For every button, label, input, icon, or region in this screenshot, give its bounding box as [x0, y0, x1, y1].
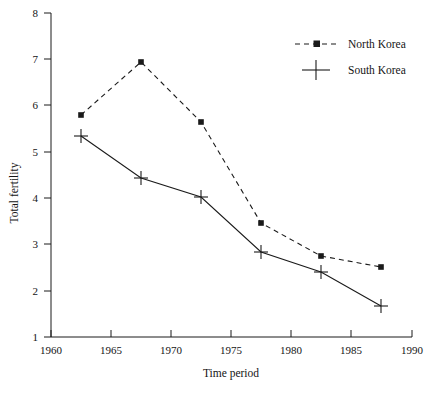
axis-group — [51, 13, 412, 337]
data-point-north-korea-1972 — [198, 119, 204, 125]
legend-marker-square-icon — [314, 41, 321, 48]
y-tick-label-5: 5 — [33, 146, 39, 158]
series-south-korea-line — [81, 136, 381, 306]
series-north-korea-line — [81, 62, 381, 267]
data-point-north-korea-1962 — [78, 112, 84, 118]
legend-entry-south-korea[interactable]: South Korea — [302, 60, 406, 80]
y-tick-label-1: 1 — [33, 331, 39, 343]
x-tick-marks — [51, 330, 412, 337]
x-tick-label-1980: 1980 — [280, 344, 303, 356]
y-tick-label-3: 3 — [33, 238, 39, 250]
series-south-korea — [74, 129, 388, 313]
y-tick-label-4: 4 — [33, 192, 39, 204]
y-tick-label-7: 7 — [33, 53, 39, 65]
legend-label-south-korea: South Korea — [348, 64, 406, 76]
chart-legend: North Korea South Korea — [295, 38, 406, 80]
x-tick-label-1965: 1965 — [100, 344, 123, 356]
data-point-south-korea-1982 — [314, 265, 328, 279]
data-point-north-korea-1967 — [138, 59, 144, 65]
x-tick-label-1990: 1990 — [401, 344, 424, 356]
y-tick-label-6: 6 — [33, 99, 39, 111]
x-tick-label-1970: 1970 — [160, 344, 183, 356]
legend-label-north-korea: North Korea — [348, 38, 406, 50]
y-axis-title: Total fertility — [8, 162, 21, 223]
legend-marker-plus-icon — [302, 60, 330, 80]
x-tick-label-1985: 1985 — [340, 344, 363, 356]
fertility-line-chart-figure: 8 7 6 5 4 3 2 1 1960 1965 1970 1975 1980 — [0, 0, 428, 397]
x-tick-label-1975: 1975 — [220, 344, 243, 356]
data-point-south-korea-1987 — [374, 299, 388, 313]
data-point-north-korea-1977 — [258, 220, 264, 226]
x-axis-title: Time period — [203, 367, 259, 380]
data-point-south-korea-1967 — [134, 171, 148, 185]
data-point-north-korea-1987 — [378, 264, 384, 270]
y-tick-labels: 8 7 6 5 4 3 2 1 — [33, 7, 39, 343]
chart-canvas: 8 7 6 5 4 3 2 1 1960 1965 1970 1975 1980 — [0, 0, 428, 397]
y-tick-marks — [44, 13, 51, 337]
y-tick-label-2: 2 — [33, 285, 39, 297]
x-tick-label-1960: 1960 — [40, 344, 63, 356]
legend-entry-north-korea[interactable]: North Korea — [295, 38, 406, 50]
data-point-south-korea-1962 — [74, 129, 88, 143]
x-tick-labels: 1960 1965 1970 1975 1980 1985 1990 — [40, 344, 424, 356]
data-point-north-korea-1982 — [318, 253, 324, 259]
y-tick-label-8: 8 — [33, 7, 39, 19]
series-north-korea — [78, 59, 384, 270]
